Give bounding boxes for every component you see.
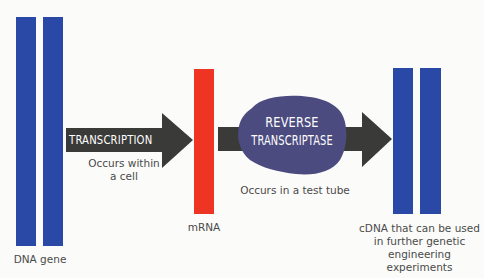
cdna-label-line: in further genetic xyxy=(355,235,484,248)
transcription-note-line: Occurs within xyxy=(72,157,176,170)
cdna-strand-left xyxy=(393,68,413,214)
mrna-label: mRNA xyxy=(180,221,228,234)
mrna-strand xyxy=(194,69,214,214)
reverse-transcription-note: Occurs in a test tube xyxy=(232,184,358,197)
enzyme-label: REVERSE TRANSCRIPTASE xyxy=(238,113,346,149)
cdna-label-line: engineering experiments xyxy=(355,248,484,274)
enzyme-label-line: TRANSCRIPTASE xyxy=(250,131,334,149)
cdna-label-line: cDNA that can be used xyxy=(355,222,484,235)
transcription-note-line: a cell xyxy=(72,170,176,183)
transcription-note: Occurs within a cell xyxy=(72,157,176,183)
enzyme-label-line: REVERSE xyxy=(243,113,340,131)
cdna-strand-right xyxy=(420,68,441,214)
cdna-label: cDNA that can be used in further genetic… xyxy=(355,222,484,274)
transcription-label: TRANSCRIPTION xyxy=(66,130,155,150)
